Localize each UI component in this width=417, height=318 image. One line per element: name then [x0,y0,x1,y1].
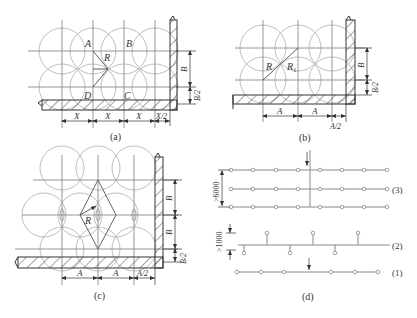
dim-a-half: A/2 [329,122,341,131]
label-d: D [83,90,92,101]
sprinkler-layout-diagram: A B R D C X X X X/2 B B/2 (a) [0,0,417,318]
dimension-vertical-6000: >6000 [212,170,230,207]
wall-corner [233,16,355,109]
dim-a-2: A [112,268,119,278]
dim-x-2: X [104,111,111,121]
dim-a-half: A/2 [136,269,148,278]
caption-b: (b) [299,132,311,144]
wall-corner [15,153,163,268]
wall-corner [38,16,177,110]
dim-a-1: A [276,106,283,116]
dim-x-1: X [73,111,80,121]
label-r1: R1 [286,61,297,74]
dimension-horizontal: A A A/2 [62,268,155,285]
dim-a-2: A [311,106,318,116]
dimension-vertical: B B/2 [176,51,202,104]
dim-1000: >1000 [215,231,224,252]
dim-x-half: X/2 [155,112,167,121]
dimension-horizontal: A A A/2 [263,104,346,131]
dim-b-half: B/2 [193,90,202,101]
dimension-vertical: B B B/2 [163,180,188,264]
coverage-circles [240,25,355,103]
panel-a: A B R D C X X X X/2 B B/2 (a) [28,16,202,143]
coverage-circles [22,146,156,271]
dimension-vertical: B B/2 [355,48,380,95]
row-label-2: (2) [392,241,403,251]
caption-a: (a) [110,131,121,143]
label-a: A [84,38,92,49]
label-b: B [126,38,132,49]
dim-6000: >6000 [212,181,221,202]
dimension-horizontal: X X X X/2 [62,110,170,126]
dim-x-3: X [135,111,142,121]
label-r: R [84,215,91,226]
dim-b-1: B [164,195,174,201]
row-label-3: (3) [392,185,403,195]
panel-d: (3) >6000 (2) >1000 [212,150,403,303]
dim-b: B [356,62,366,68]
dim-b-half: B/2 [371,82,380,93]
row-label-1: (1) [392,268,403,278]
pipe-group-2: (2) [238,231,403,255]
coverage-circles [39,28,178,110]
label-r: R [265,61,272,72]
panel-c: R A A A/2 B B B/2 (c) [15,146,188,302]
pipe-group-1: (1) [235,258,402,278]
pipe-group-3: (3) [229,150,402,209]
dim-a-1: A [76,268,83,278]
dim-b-half: B/2 [179,253,188,264]
label-c: C [124,90,131,101]
caption-c: (c) [94,290,105,302]
panel-b: R R1 A A A/2 B B/2 (b) [233,16,380,144]
dim-b: B [179,66,189,72]
label-r: R [103,52,110,63]
dim-b-2: B [164,229,174,235]
dimension-vertical-1000: >1000 [215,224,236,260]
caption-d: (d) [302,291,314,303]
